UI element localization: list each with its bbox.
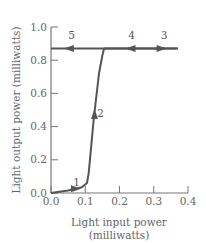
annotation-label-1: 1 [73, 176, 80, 188]
y-tick-label: 0.6 [30, 87, 47, 99]
arrow-left-icon [125, 45, 135, 52]
curve-lower-branch [51, 49, 178, 193]
x-axis-units: (milliwatts) [89, 229, 150, 241]
x-tick-label: 0.3 [145, 195, 162, 207]
annotation-label-3: 3 [161, 29, 168, 41]
annotations: 12345 [64, 29, 168, 193]
arrow-right-icon [157, 45, 167, 52]
x-tick-label: 0.0 [43, 195, 60, 207]
y-tick-label: 1.0 [30, 21, 47, 33]
y-tick-label: 0.8 [30, 54, 47, 66]
annotation-label-4: 4 [128, 29, 135, 41]
annotation-label-5: 5 [68, 29, 75, 41]
x-tick-label: 0.2 [111, 195, 128, 207]
x-axis-title: Light input power [71, 216, 168, 228]
y-tick-label: 0.4 [30, 120, 47, 132]
arrow-left-icon [64, 45, 74, 52]
x-tick-label: 0.4 [180, 195, 197, 207]
data-series [51, 49, 178, 193]
hysteresis-chart: 0.00.20.40.60.81.00.00.10.20.30.4 12345 … [0, 0, 206, 243]
x-tick-label: 0.1 [77, 195, 94, 207]
y-tick-label: 0.2 [30, 153, 47, 165]
y-axis-title: Light output power (milliwatts) [10, 27, 22, 194]
annotation-label-2: 2 [97, 107, 104, 119]
